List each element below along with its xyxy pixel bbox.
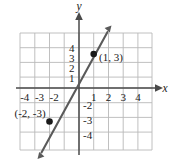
x-tick-label: 4 <box>135 91 141 103</box>
y-tick-label: -4 <box>83 129 93 141</box>
x-tick-labels: -4 -3 -2 1 2 3 4 <box>20 91 141 103</box>
y-tick-label: -3 <box>83 114 93 126</box>
y-tick-labels: 4 3 2 1 -2 -3 -4 <box>69 42 93 141</box>
plotted-line <box>38 26 112 160</box>
y-tick-label: 1 <box>69 72 75 84</box>
x-tick-label: 2 <box>106 91 112 103</box>
coordinate-plane-figure: -4 -3 -2 1 2 3 4 4 3 2 1 -2 -3 -4 x y (1… <box>0 0 173 161</box>
point-label-lower: (-2, -3) <box>15 107 46 120</box>
x-axis-label: x <box>161 82 168 94</box>
y-axis-label: y <box>75 0 82 13</box>
x-tick-label: 3 <box>120 91 126 103</box>
y-tick-label: -2 <box>83 99 92 111</box>
point-label-upper: (1, 3) <box>99 51 123 64</box>
x-tick-label: -3 <box>35 91 45 103</box>
point-neg2-neg3 <box>46 118 53 125</box>
x-tick-label: -4 <box>20 91 30 103</box>
x-tick-label: -2 <box>50 91 59 103</box>
point-1-3 <box>90 51 97 58</box>
